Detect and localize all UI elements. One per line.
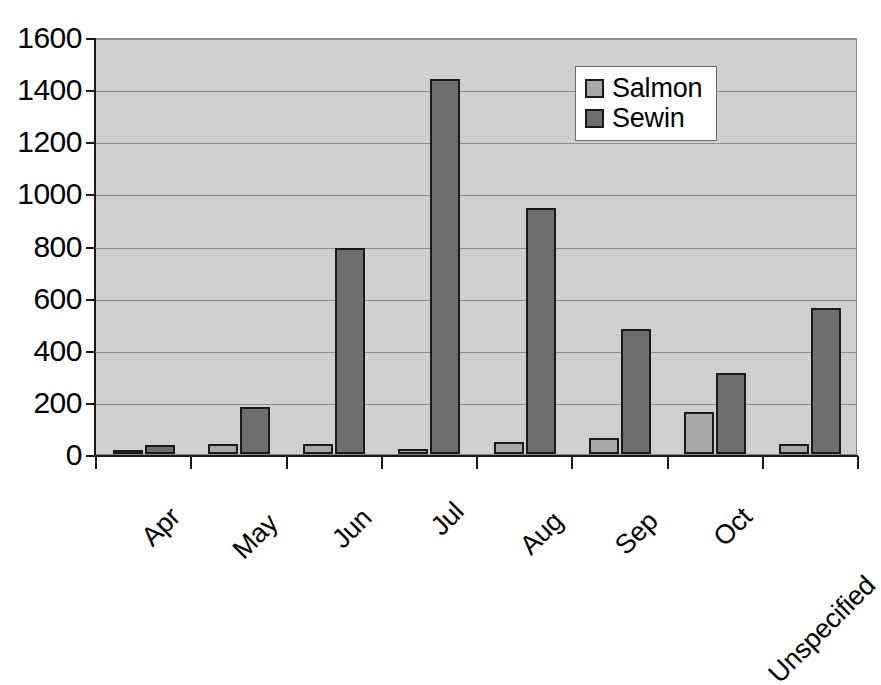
bar-salmon-jul — [398, 449, 428, 454]
gridline — [96, 195, 856, 196]
x-axis-tick — [190, 456, 192, 469]
x-axis-tick — [571, 456, 573, 469]
x-axis-category-label: Jul — [426, 498, 469, 541]
bar-salmon-unspecified — [779, 444, 809, 454]
x-axis-category-label-text: Sep — [611, 507, 663, 559]
gridline — [96, 91, 856, 92]
legend-item-sewin: Sewin — [585, 103, 702, 133]
bar-sewin-unspecified — [811, 308, 841, 454]
bar-sewin-jul — [430, 79, 460, 454]
bar-sewin-may — [240, 407, 270, 454]
x-axis-tick — [857, 456, 859, 469]
gridline — [96, 300, 856, 301]
gridline — [96, 248, 856, 249]
plot-area — [95, 38, 857, 455]
legend-item-label: Sewin — [612, 105, 685, 132]
x-axis-category-label-text: Unspecified — [764, 571, 881, 685]
x-axis-tick — [476, 456, 478, 469]
bar-salmon-apr — [113, 450, 143, 454]
salmon-swatch-icon — [585, 79, 604, 98]
cut-off-title — [120, 0, 540, 5]
x-axis-category-label-text: Oct — [709, 503, 757, 551]
bar-sewin-sep — [621, 329, 651, 454]
bar-salmon-aug — [494, 442, 524, 455]
y-axis-tick — [86, 403, 95, 405]
x-axis-tick — [381, 456, 383, 469]
bar-salmon-may — [208, 444, 238, 454]
x-axis-category-label: Unspecified — [764, 571, 881, 685]
gridline — [96, 352, 856, 353]
y-axis-tick-label-text: 1600 — [17, 23, 82, 53]
y-axis-tick-label-text: 0 — [66, 440, 82, 470]
y-axis-tick-label-text: 400 — [33, 336, 82, 366]
bar-salmon-jun — [303, 444, 333, 454]
bar-sewin-jun — [335, 248, 365, 454]
y-axis-tick-label-text: 1000 — [17, 179, 82, 209]
bar-sewin-aug — [526, 208, 556, 454]
x-axis-category-label: Jun — [327, 504, 376, 553]
y-axis-tick — [86, 38, 95, 40]
y-axis-tick — [86, 194, 95, 196]
y-axis-tick — [86, 142, 95, 144]
x-axis-category-label-text: Jun — [327, 504, 376, 553]
x-axis-tick — [286, 456, 288, 469]
y-axis-tick-label-text: 1200 — [17, 127, 82, 157]
bar-sewin-apr — [145, 445, 175, 454]
x-axis-category-label: May — [229, 509, 284, 564]
chart-legend: SalmonSewin — [575, 66, 717, 141]
y-axis-tick — [86, 299, 95, 301]
y-axis-tick-label-text: 800 — [33, 232, 82, 262]
bar-salmon-oct — [684, 412, 714, 454]
x-axis-category-label-text: Apr — [137, 503, 185, 551]
x-axis-category-label: Apr — [137, 503, 185, 551]
x-axis-tick — [667, 456, 669, 469]
legend-item-label: Salmon — [612, 75, 702, 102]
x-axis-category-label-text: May — [229, 509, 284, 564]
y-axis-tick-label-text: 1400 — [17, 75, 82, 105]
y-axis-tick-label-text: 600 — [33, 284, 82, 314]
bar-sewin-oct — [716, 373, 746, 454]
y-axis-tick — [86, 247, 95, 249]
x-axis-category-label: Oct — [709, 503, 757, 551]
x-axis-category-label-text: Aug — [516, 507, 568, 559]
bar-salmon-sep — [589, 438, 619, 454]
x-axis-category-label-text: Jul — [426, 498, 469, 541]
x-axis-tick — [762, 456, 764, 469]
y-axis-tick — [86, 90, 95, 92]
x-axis-category-label: Sep — [611, 507, 663, 559]
sewin-swatch-icon — [585, 109, 604, 128]
x-axis-category-label: Aug — [516, 507, 568, 559]
x-axis-tick — [95, 456, 97, 469]
gridline — [96, 143, 856, 144]
y-axis-tick — [86, 455, 95, 457]
y-axis-tick-label-text: 200 — [33, 388, 82, 418]
legend-item-salmon: Salmon — [585, 73, 702, 103]
y-axis-tick — [86, 351, 95, 353]
gridline — [96, 39, 856, 40]
